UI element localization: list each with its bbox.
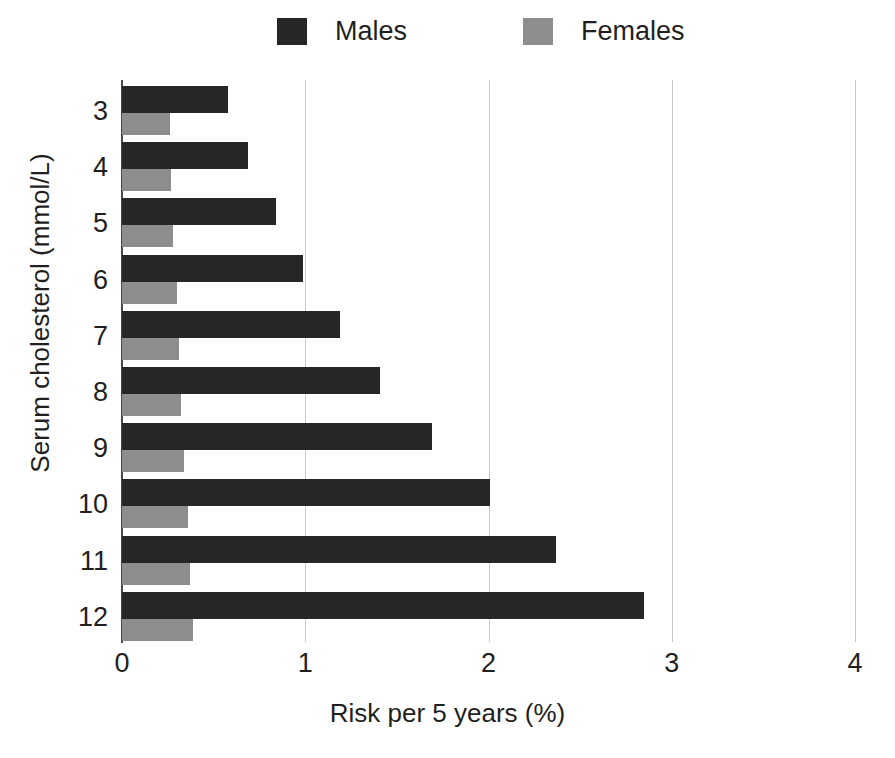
bar-group xyxy=(122,198,855,254)
bar-females xyxy=(122,506,188,528)
bar-males xyxy=(122,86,228,113)
legend-entry-females: Females xyxy=(523,18,685,45)
bar-females xyxy=(122,394,181,416)
bar-males xyxy=(122,592,644,619)
bar-males xyxy=(122,367,380,394)
x-tick-label: 2 xyxy=(459,650,519,677)
bar-males xyxy=(122,198,276,225)
bar-group xyxy=(122,592,855,648)
x-axis-title: Risk per 5 years (%) xyxy=(0,700,895,726)
y-tick-label: 12 xyxy=(0,604,108,631)
bar-females xyxy=(122,169,171,191)
bar-males xyxy=(122,479,490,506)
bar-females xyxy=(122,282,177,304)
bar-group xyxy=(122,479,855,535)
bar-group xyxy=(122,367,855,423)
bar-group xyxy=(122,536,855,592)
bar-group xyxy=(122,86,855,142)
y-axis-title: Serum cholesterol (mmol/L) xyxy=(27,78,53,548)
chart-legend: Males Females xyxy=(0,14,895,56)
y-tick-label: 3 xyxy=(0,98,108,125)
bar-males xyxy=(122,255,303,282)
gridline-x-4 xyxy=(855,80,856,642)
bar-females xyxy=(122,113,170,135)
bar-group xyxy=(122,142,855,198)
legend-swatch-males-icon xyxy=(277,18,307,45)
x-tick-label: 0 xyxy=(92,650,152,677)
y-tick-label: 11 xyxy=(0,548,108,575)
chart-figure: Males Females 3456789101112 01234 Serum … xyxy=(0,0,895,758)
bar-males xyxy=(122,536,556,563)
x-tick-label: 4 xyxy=(825,650,885,677)
bar-males xyxy=(122,311,340,338)
legend-label-females: Females xyxy=(581,18,685,45)
x-tick-label: 3 xyxy=(642,650,702,677)
legend-entry-males: Males xyxy=(277,18,407,45)
bar-females xyxy=(122,450,184,472)
bar-females xyxy=(122,619,193,641)
bar-females xyxy=(122,338,179,360)
bar-males xyxy=(122,423,432,450)
bar-females xyxy=(122,563,190,585)
bar-males xyxy=(122,142,248,169)
bar-females xyxy=(122,225,173,247)
bar-group xyxy=(122,311,855,367)
plot-area xyxy=(122,80,855,642)
bar-group xyxy=(122,255,855,311)
x-tick-label: 1 xyxy=(275,650,335,677)
y-tick-label: 10 xyxy=(0,491,108,518)
bar-group xyxy=(122,423,855,479)
legend-swatch-females-icon xyxy=(523,18,553,45)
legend-label-males: Males xyxy=(335,18,407,45)
